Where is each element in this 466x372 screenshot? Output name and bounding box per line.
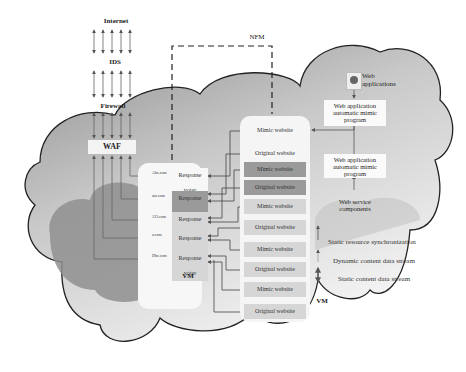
domain-label: 123.com	[152, 214, 166, 219]
vm-right-label: VM	[312, 297, 332, 305]
web-applications-label: Web applications	[362, 72, 410, 88]
web-service-components-label: Web service components	[330, 198, 380, 212]
original-website: Original website	[244, 146, 306, 161]
mimic-website: Mimic website	[244, 282, 306, 297]
waf-box: WAF	[88, 140, 136, 154]
mimic-website: Mimic website	[244, 162, 306, 177]
domain-label: Dbc.com	[152, 253, 167, 258]
original-website: Original website	[244, 262, 306, 277]
web-app-icon	[346, 72, 362, 90]
mimic-website: Mimic website	[244, 123, 306, 138]
vm-left-label: VM	[178, 272, 198, 280]
mimic-website: Mimic website	[244, 242, 306, 257]
original-website: Original website	[244, 220, 306, 235]
legend-static-resource-sync: Static resource synchronization	[328, 238, 416, 246]
diagram-background	[0, 0, 466, 372]
original-website: Original website	[244, 180, 306, 195]
internet-label: Internet	[96, 17, 136, 25]
ids-label: IDS	[100, 58, 130, 66]
mimic-program-box-2: Web application automatic mimic program	[324, 154, 386, 178]
cloud-shape	[25, 45, 453, 341]
legend-static-content: Static content data stream	[338, 275, 410, 283]
nfm-label: NFM	[242, 33, 272, 41]
firewall-label: Firewall	[90, 102, 136, 110]
mimic-program-box-1: Web application automatic mimic program	[324, 100, 386, 126]
domain-label: a.com	[152, 232, 162, 237]
domain-label: ass.com	[152, 193, 165, 198]
domain-label: Abc.com	[152, 170, 167, 175]
mimic-website: Mimic website	[244, 199, 306, 214]
legend-dynamic-content: Dynamic content data stream	[333, 257, 415, 265]
original-website: Original website	[244, 304, 306, 319]
